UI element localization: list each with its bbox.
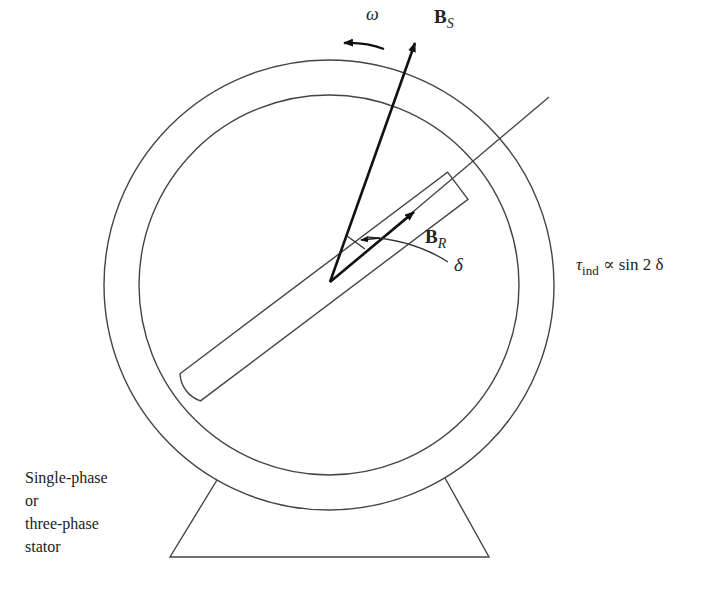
rotor-field-label: BR (425, 226, 446, 252)
stator-caption-line: stator (25, 535, 108, 558)
omega-label: ω (366, 4, 379, 25)
stator-caption-line: Single-phase (25, 466, 108, 489)
stator-inner-ring (139, 95, 519, 475)
stator-caption-line: or (25, 489, 108, 512)
torque-equation: τind ∝ sin 2 δ (576, 254, 664, 279)
delta-label: δ (454, 254, 463, 276)
rotation-arrow (344, 43, 384, 49)
stator-field-label: BS (434, 6, 454, 32)
stator-caption: Single-phase or three-phase stator (25, 466, 108, 558)
stator-caption-line: three-phase (25, 512, 108, 535)
